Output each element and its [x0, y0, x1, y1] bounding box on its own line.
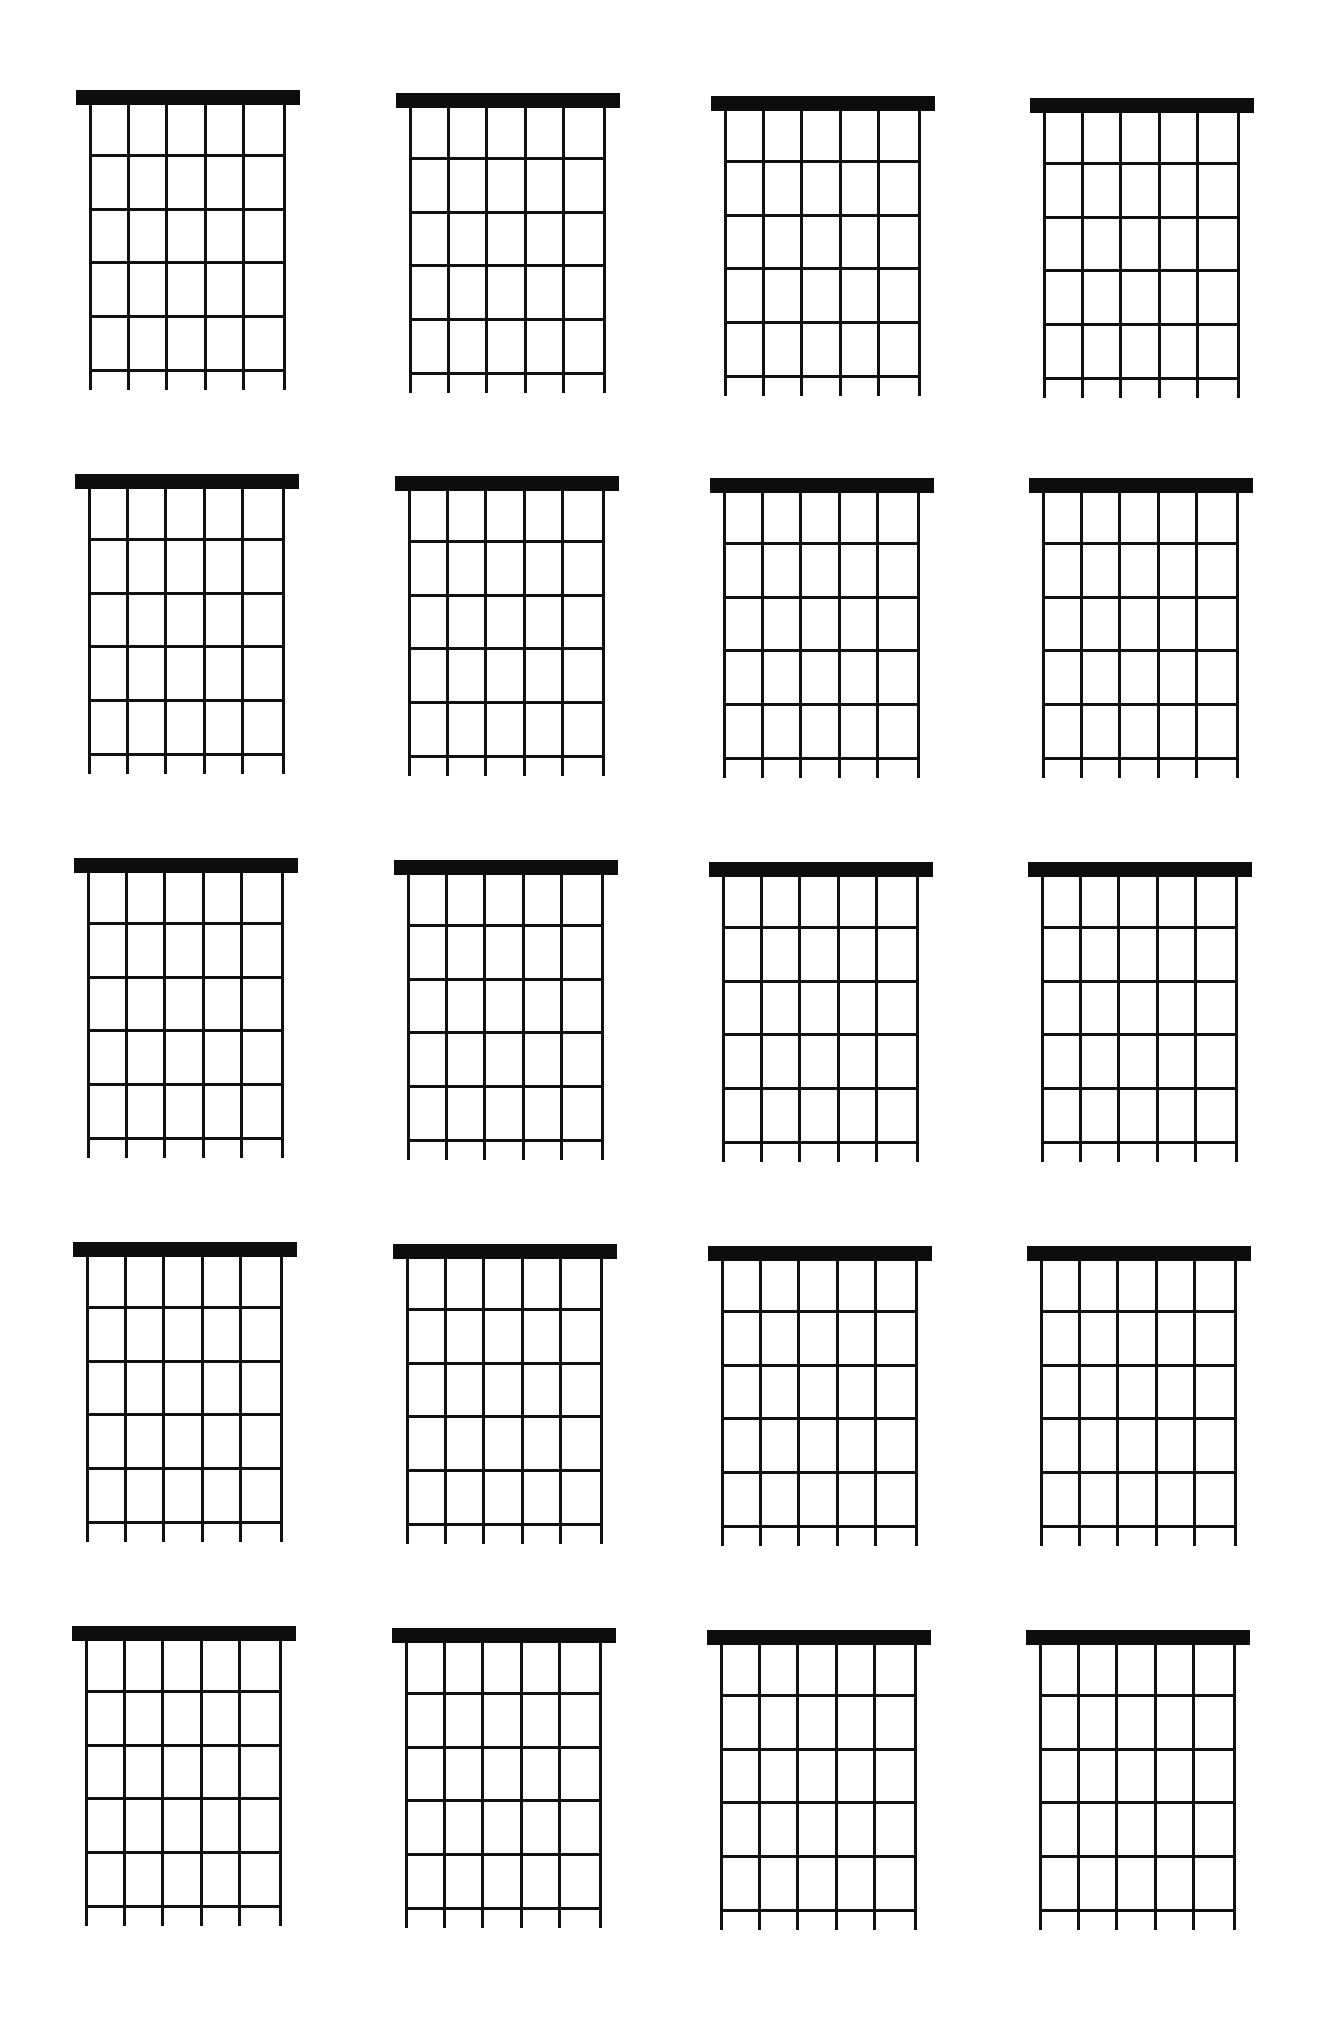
string-line-3	[798, 875, 801, 1162]
fret-line-5	[87, 1137, 284, 1140]
string-line-5	[238, 1639, 241, 1926]
string-line-6	[281, 871, 284, 1158]
fret-line-5	[722, 1141, 919, 1144]
string-line-6	[918, 109, 921, 396]
fret-line-1	[723, 542, 920, 545]
chord-diagram-r1-c1	[76, 90, 300, 392]
nut-bar	[395, 476, 619, 491]
chord-diagram-r5-c4	[1026, 1630, 1250, 1932]
string-line-6	[283, 103, 286, 390]
fret-line-3	[723, 649, 920, 652]
string-line-4	[835, 1643, 838, 1930]
fret-line-1	[1040, 1310, 1237, 1313]
string-line-3	[1115, 1643, 1118, 1930]
string-line-2	[1078, 1259, 1081, 1546]
fret-line-5	[1041, 1141, 1238, 1144]
fret-line-3	[721, 1417, 918, 1420]
chord-diagram-r4-c2	[393, 1244, 617, 1546]
string-line-3	[797, 1259, 800, 1546]
fret-line-4	[724, 321, 921, 324]
string-line-5	[1192, 1643, 1195, 1930]
string-line-3	[1119, 111, 1122, 398]
nut-bar	[1027, 1246, 1251, 1261]
string-line-5	[1194, 875, 1197, 1162]
string-line-1	[88, 487, 91, 774]
string-line-3	[484, 489, 487, 776]
fret-line-4	[407, 1085, 604, 1088]
fret-line-1	[1041, 926, 1238, 929]
fret-line-5	[409, 372, 606, 375]
string-line-2	[1077, 1643, 1080, 1930]
string-line-6	[915, 1259, 918, 1546]
string-line-1	[1042, 491, 1045, 778]
string-line-6	[1234, 1259, 1237, 1546]
chord-diagram-r2-c2	[395, 476, 619, 778]
string-line-5	[558, 1641, 561, 1928]
string-line-3	[1116, 1259, 1119, 1546]
string-line-4	[1158, 111, 1161, 398]
string-line-3	[485, 106, 488, 393]
fret-line-3	[89, 261, 286, 264]
nut-bar	[1030, 98, 1254, 113]
string-line-5	[1196, 111, 1199, 398]
fret-line-4	[722, 1087, 919, 1090]
nut-bar	[75, 474, 299, 489]
string-line-3	[165, 103, 168, 390]
string-line-5	[1195, 491, 1198, 778]
string-line-4	[837, 875, 840, 1162]
string-line-3	[163, 871, 166, 1158]
fret-line-4	[88, 699, 285, 702]
string-line-3	[799, 491, 802, 778]
fret-line-5	[86, 1521, 283, 1524]
fret-line-4	[1039, 1855, 1236, 1858]
fret-line-3	[407, 1031, 604, 1034]
string-line-2	[123, 1639, 126, 1926]
string-line-1	[724, 109, 727, 396]
fret-line-1	[409, 157, 606, 160]
fret-line-3	[1040, 1417, 1237, 1420]
chord-diagram-r1-c2	[396, 93, 620, 395]
fret-line-1	[405, 1692, 602, 1695]
nut-bar	[396, 93, 620, 108]
string-line-1	[405, 1641, 408, 1928]
string-line-5	[1193, 1259, 1196, 1546]
string-line-6	[1236, 491, 1239, 778]
fret-line-4	[409, 318, 606, 321]
nut-bar	[73, 1242, 297, 1257]
chord-diagram-r5-c3	[707, 1630, 931, 1932]
string-line-1	[1039, 1643, 1042, 1930]
nut-bar	[710, 478, 934, 493]
string-line-4	[202, 871, 205, 1158]
string-line-3	[800, 109, 803, 396]
fret-line-2	[88, 592, 285, 595]
fret-line-3	[1041, 1033, 1238, 1036]
string-line-1	[407, 873, 410, 1160]
string-line-6	[601, 873, 604, 1160]
fret-line-4	[1043, 323, 1240, 326]
string-line-1	[409, 106, 412, 393]
string-line-1	[1041, 875, 1044, 1162]
fret-line-5	[1040, 1525, 1237, 1528]
fret-line-4	[406, 1469, 603, 1472]
nut-bar	[711, 96, 935, 111]
string-line-2	[125, 871, 128, 1158]
string-line-4	[523, 489, 526, 776]
fret-line-4	[1041, 1087, 1238, 1090]
fret-line-3	[405, 1799, 602, 1802]
fret-line-2	[86, 1360, 283, 1363]
fret-line-1	[720, 1694, 917, 1697]
string-line-2	[1079, 875, 1082, 1162]
string-line-3	[162, 1255, 165, 1542]
string-line-2	[1081, 111, 1084, 398]
fret-line-2	[722, 980, 919, 983]
fret-line-1	[1043, 162, 1240, 165]
fret-line-1	[88, 538, 285, 541]
fret-line-2	[1041, 980, 1238, 983]
chord-diagram-r3-c1	[74, 858, 298, 1160]
fret-line-2	[408, 594, 605, 597]
string-line-4	[520, 1641, 523, 1928]
fret-line-4	[89, 315, 286, 318]
fret-line-4	[1040, 1471, 1237, 1474]
string-line-3	[161, 1639, 164, 1926]
string-line-4	[204, 103, 207, 390]
